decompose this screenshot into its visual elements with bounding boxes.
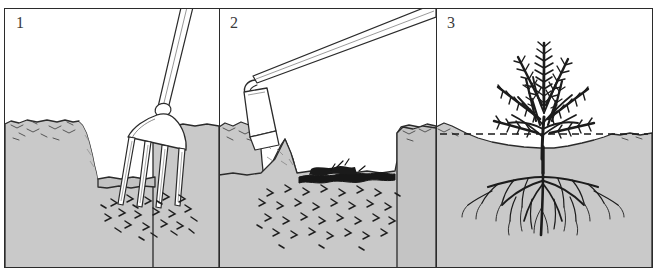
panel-2-hoe-filling-trench: 2	[219, 9, 436, 267]
figure-three-stage-trench-planting: 1	[0, 0, 657, 277]
panel-2-number: 2	[230, 15, 238, 31]
panel-2-drawing	[219, 9, 436, 267]
panel-1-number: 1	[16, 15, 24, 31]
panel-3-drawing	[436, 9, 652, 267]
illustration-frame: 1	[4, 8, 653, 268]
panel-divider-2-3	[436, 9, 437, 267]
panel-divider-1-2	[219, 9, 220, 267]
soil-bank-right	[397, 126, 436, 267]
panel-3-planted-shrub: 3	[436, 9, 652, 267]
panel-1-drawing	[5, 9, 219, 267]
panel-1-fork-loosening-trench: 1	[5, 9, 219, 267]
panel-3-number: 3	[447, 15, 455, 31]
